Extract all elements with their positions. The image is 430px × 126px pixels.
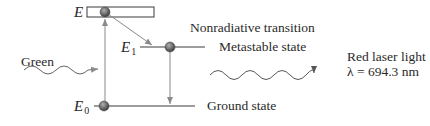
metastable-label: Metastable state <box>219 40 306 54</box>
green-label: Green <box>21 55 54 69</box>
electron-excited <box>100 7 110 17</box>
nonradiative-label: Nonradiative transition <box>190 21 315 35</box>
level-e-label: E <box>74 5 83 20</box>
ground-label: Ground state <box>207 99 276 113</box>
level-e1-label: E1 <box>121 40 136 57</box>
level-e1-subscript: 1 <box>131 46 136 57</box>
level-e0-label: E0 <box>74 99 89 116</box>
electron-ground <box>99 101 109 111</box>
wavelength-label: λ = 694.3 nm <box>347 65 419 79</box>
red-light-label: Red laser light <box>347 50 426 64</box>
red-wave <box>210 70 314 80</box>
level-e0-subscript: 0 <box>84 105 89 116</box>
level-e-symbol: E <box>74 4 83 20</box>
level-e1-symbol: E <box>121 39 130 55</box>
excited-band <box>87 7 154 17</box>
level-e0-symbol: E <box>74 98 83 114</box>
electron-metastable <box>165 42 175 52</box>
